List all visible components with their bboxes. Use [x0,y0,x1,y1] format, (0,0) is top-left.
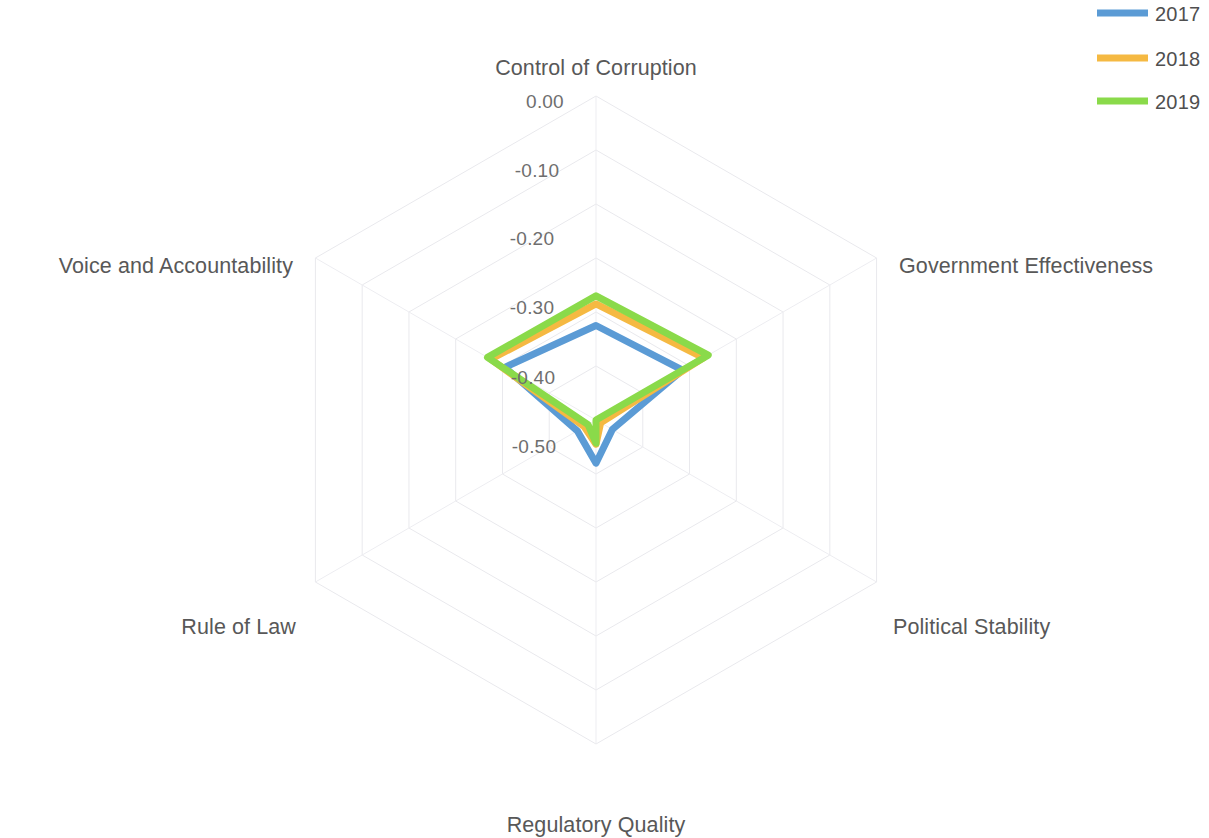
legend-item-2019[interactable]: 2019 [1097,91,1200,113]
tick-label-5: -0.50 [512,436,556,457]
tick-label-3: -0.30 [510,297,554,318]
axis-label-control-of-corruption: Control of Corruption [495,56,697,80]
tick-label-4: -0.40 [511,367,555,388]
tick-label-2: -0.20 [510,228,554,249]
axis-label-voice-and-accountability: Voice and Accountability [59,254,293,278]
tick-label-1: -0.10 [515,160,559,181]
axis-label-government-effectiveness: Government Effectiveness [899,254,1153,278]
tick-label-0: 0.00 [526,91,564,112]
radar-chart-container: Control of Corruption Government Effecti… [0,0,1209,838]
legend-label-2018: 2018 [1155,48,1200,70]
axis-label-political-stability: Political Stability [893,615,1050,639]
radar-chart-svg: Control of Corruption Government Effecti… [0,0,1209,838]
legend-label-2019: 2019 [1155,91,1200,113]
axis-label-regulatory-quality: Regulatory Quality [507,813,686,837]
legend: 2017 2018 2019 [1097,3,1200,113]
legend-item-2017[interactable]: 2017 [1097,3,1200,25]
axis-label-rule-of-law: Rule of Law [181,615,296,639]
legend-label-2017: 2017 [1155,3,1200,25]
legend-item-2018[interactable]: 2018 [1097,48,1200,70]
